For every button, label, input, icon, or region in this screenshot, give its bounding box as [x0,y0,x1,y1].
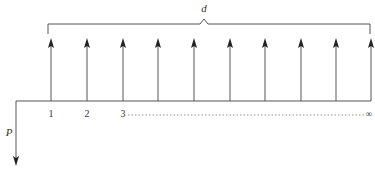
receipt-arrow [84,38,90,101]
bracket-label-d: d [201,2,207,14]
receipt-arrow [333,38,339,101]
receipt-arrow [298,38,304,101]
receipt-arrow [262,38,268,101]
receipt-arrow [227,38,233,101]
period-label-2: 2 [85,108,90,119]
cash-flow-diagram: d P 1 2 3 ∞ [0,0,375,171]
brace-bracket [48,19,370,34]
diagram-svg: d P 1 2 3 ∞ [0,0,375,171]
present-value-label: P [5,126,13,138]
receipt-arrow [191,38,197,101]
receipt-arrow [48,38,54,101]
receipt-arrow [120,38,126,101]
receipt-arrows [48,38,374,101]
receipt-arrow [155,38,161,101]
period-label-1: 1 [49,108,54,119]
receipt-arrow [368,38,374,101]
infinity-label: ∞ [366,109,372,119]
present-value-arrow [13,101,19,166]
period-label-3: 3 [121,108,126,119]
